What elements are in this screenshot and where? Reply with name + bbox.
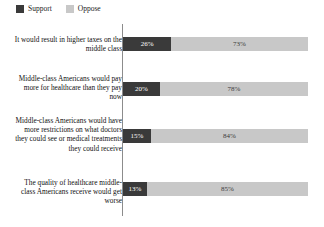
bar-track: 15% 84% bbox=[123, 129, 308, 143]
bar-segment-oppose: 73% bbox=[171, 37, 308, 51]
bar-segment-support: 20% bbox=[123, 82, 160, 96]
legend-label-support: Support bbox=[28, 5, 52, 13]
stacked-bar-chart: Support Oppose It would result in higher… bbox=[0, 0, 324, 227]
bar-value-oppose: 78% bbox=[228, 85, 241, 94]
table-row: Middle-class Americans would have more r… bbox=[0, 112, 324, 170]
bar-track: 13% 85% bbox=[123, 182, 308, 196]
legend-swatch-oppose-icon bbox=[66, 5, 74, 13]
bar-value-support: 15% bbox=[130, 132, 143, 141]
bar-segment-oppose: 85% bbox=[147, 182, 308, 196]
bar-segment-support: 15% bbox=[123, 129, 151, 143]
bar-segment-oppose: 78% bbox=[160, 82, 308, 96]
table-row: It would result in higher taxes on the m… bbox=[0, 22, 324, 66]
legend-label-oppose: Oppose bbox=[78, 5, 101, 13]
row-label: It would result in higher taxes on the m… bbox=[14, 35, 122, 53]
bar-value-support: 13% bbox=[129, 185, 142, 194]
legend-swatch-support-icon bbox=[16, 5, 24, 13]
bar-value-support: 20% bbox=[135, 85, 148, 94]
bar-value-oppose: 85% bbox=[221, 185, 234, 194]
plot-area: It would result in higher taxes on the m… bbox=[0, 22, 324, 222]
bar-segment-support: 13% bbox=[123, 182, 147, 196]
row-label: Middle-class Americans would pay more fo… bbox=[14, 74, 122, 102]
bar-rows: It would result in higher taxes on the m… bbox=[0, 22, 324, 222]
table-row: Middle-class Americans would pay more fo… bbox=[0, 66, 324, 112]
row-label: Middle-class Americans would have more r… bbox=[14, 116, 122, 153]
legend-item-support: Support bbox=[16, 5, 52, 13]
legend-item-oppose: Oppose bbox=[66, 5, 101, 13]
bar-track: 26% 73% bbox=[123, 37, 308, 51]
bar-value-support: 26% bbox=[141, 40, 154, 49]
chart-legend: Support Oppose bbox=[16, 3, 101, 15]
table-row: The quality of healthcare middle-class A… bbox=[0, 170, 324, 218]
row-label: The quality of healthcare middle-class A… bbox=[14, 178, 122, 206]
bar-value-oppose: 84% bbox=[223, 132, 236, 141]
bar-segment-oppose: 84% bbox=[151, 129, 308, 143]
bar-segment-support: 26% bbox=[123, 37, 171, 51]
bar-track: 20% 78% bbox=[123, 82, 308, 96]
bar-value-oppose: 73% bbox=[233, 40, 246, 49]
